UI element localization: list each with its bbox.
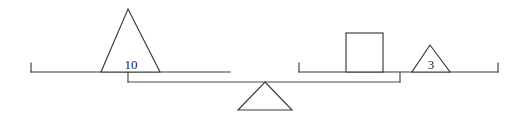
fulcrum-triangle [238, 82, 292, 110]
fulcrum-outline [238, 82, 292, 110]
balance-scale-figure: 10 3 [0, 0, 520, 125]
right-triangle-weight: 3 [412, 45, 450, 72]
balance-scale-svg: 10 3 [0, 0, 520, 125]
right-pan-group [299, 63, 498, 82]
right-square-weight [346, 33, 383, 72]
left-triangle-label: 10 [125, 57, 138, 72]
right-triangle-label: 3 [428, 57, 435, 72]
right-square-outline [346, 33, 383, 72]
left-triangle-weight: 10 [101, 9, 160, 72]
